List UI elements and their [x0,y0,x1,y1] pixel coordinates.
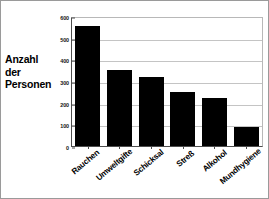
y-axis-title-line-3: Personen [5,78,63,91]
y-axis-tick-label: 500 [60,37,69,43]
x-axis-tick-label: Schicksal [132,148,165,178]
y-axis-tick-label: 600 [60,15,69,21]
bar-slot [167,18,199,146]
x-axis-tick-labels: RauchenUmweltgifteSchicksalStreßAlkoholM… [71,149,263,199]
bar-slot [104,18,136,146]
bar-series [72,18,262,146]
bar-chart-figure: Anzahl der Personen 0100200300400500600 … [0,0,269,199]
bar[interactable] [202,98,227,146]
y-axis-title-line-2: der [5,66,63,79]
x-axis-tick-label: Alkohol [201,148,229,173]
y-axis-tick-label: 100 [60,123,69,129]
y-axis-tick-label: 0 [66,145,69,151]
bar[interactable] [234,127,259,147]
x-axis-tick-label: Streß [175,149,196,169]
bar[interactable] [170,92,195,146]
y-axis-tick-label: 200 [60,102,69,108]
bar-slot [135,18,167,146]
x-axis-tick-label: Rauchen [70,148,101,176]
bar-slot [72,18,104,146]
x-axis-tick-label: Umweltgifte [94,147,134,182]
y-axis-title-line-1: Anzahl [5,53,63,66]
y-axis-title: Anzahl der Personen [5,53,63,91]
bar[interactable] [107,70,132,146]
bar[interactable] [139,77,164,146]
bar-slot [230,18,262,146]
y-axis-tick-label: 400 [60,58,69,64]
bar-slot [199,18,231,146]
y-axis-tick-label: 300 [60,80,69,86]
plot-area: 0100200300400500600 [71,17,263,147]
bar[interactable] [75,26,100,146]
